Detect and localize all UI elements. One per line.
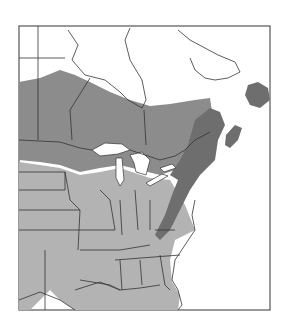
range-map	[0, 0, 288, 319]
